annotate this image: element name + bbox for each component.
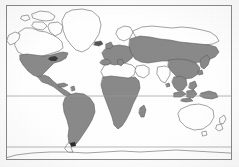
region-caribbean-lesser-antilles [71, 86, 75, 91]
map-frame [6, 5, 232, 160]
region-tasmania [202, 131, 207, 136]
region-sri-lanka [166, 83, 170, 87]
region-japan-south [198, 70, 203, 75]
world-map-figure [0, 0, 239, 167]
world-map-svg [6, 5, 232, 160]
